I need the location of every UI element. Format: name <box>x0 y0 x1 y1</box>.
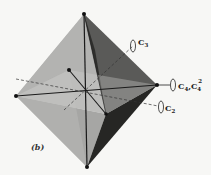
c2-rotation-icon <box>159 101 164 113</box>
octahedron-diagram: C3 C4,C42 C2 (b) <box>0 0 211 175</box>
figure-label: (b) <box>31 142 44 152</box>
c3-rotation-icon <box>131 40 136 52</box>
c4-rotation-icon <box>171 79 176 91</box>
c2-label: C2 <box>165 103 175 114</box>
c4-label: C4,C42 <box>178 78 202 92</box>
c3-label: C3 <box>138 37 148 48</box>
